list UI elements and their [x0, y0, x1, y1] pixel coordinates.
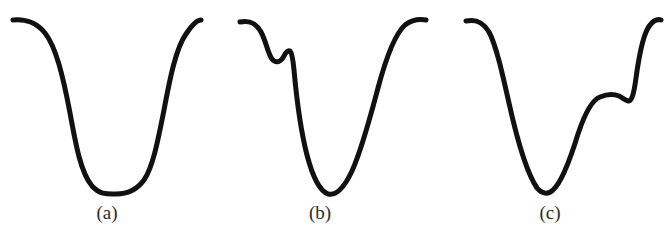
panel-caption-b: (b): [290, 203, 350, 222]
panel-caption-c: (c): [520, 203, 580, 222]
figure-background: [0, 0, 670, 236]
trough-curves-svg: [0, 0, 670, 236]
panel-caption-a: (a): [77, 203, 137, 222]
figure-container: (a) (b) (c): [0, 0, 670, 236]
